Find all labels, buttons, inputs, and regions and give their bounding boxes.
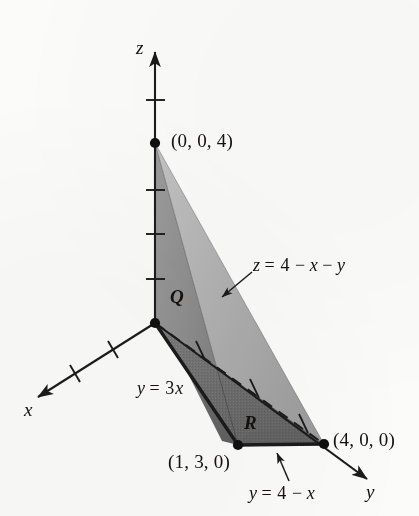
region-label-Q: Q <box>170 287 184 306</box>
eq-plane-minus-1: − <box>290 255 309 275</box>
eq-plane-const: 4 <box>279 255 290 275</box>
point-label-1-3-0: (1, 3, 0) <box>168 452 230 471</box>
eq-plane-equals: = <box>260 255 279 275</box>
point-dot-origin <box>150 318 160 328</box>
axis-label-z: z <box>136 38 143 57</box>
axis-label-y: y <box>366 482 374 501</box>
eq-y4x-const: 4 <box>276 483 287 503</box>
eq-y3x-coef: 3 <box>164 378 175 398</box>
region-label-R: R <box>244 413 257 432</box>
eq-y4x-equals: = <box>257 483 276 503</box>
eq-plane-minus-2: − <box>318 255 337 275</box>
point-label-0-0-4: (0, 0, 4) <box>171 131 233 150</box>
eq-plane-var-x: x <box>310 255 318 275</box>
eq-y4x-minus: − <box>287 483 306 503</box>
eq-plane-var-z: z <box>253 255 260 275</box>
eq-y3x-equals: = <box>145 378 164 398</box>
point-dot-1-3-0 <box>233 440 243 450</box>
equation-label-y-4-minus-x: y = 4 − x <box>249 484 315 502</box>
eq-y4x-var-x: x <box>307 483 315 503</box>
equation-label-plane: z = 4 − x − y <box>253 256 345 274</box>
equation-label-y-3x: y = 3x <box>137 379 183 397</box>
eq-plane-var-y: y <box>337 255 345 275</box>
axis-label-x: x <box>24 400 32 419</box>
point-label-4-0-0: (4, 0, 0) <box>333 430 395 449</box>
point-dot-0-0-4 <box>150 138 160 148</box>
leader-arrow-y-4-minus-x <box>277 453 289 481</box>
edge-y-4-minus-x <box>238 444 324 445</box>
eq-y4x-var-y: y <box>249 483 257 503</box>
eq-y3x-var-x: x <box>175 378 183 398</box>
point-dot-4-0-0 <box>319 439 329 449</box>
eq-y3x-var-y: y <box>137 378 145 398</box>
